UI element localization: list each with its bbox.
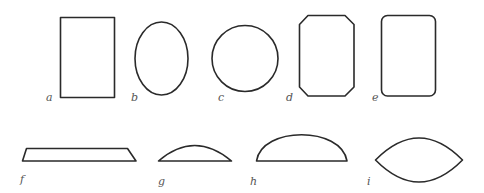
- shape-b: b: [131, 22, 188, 104]
- octagon-shape: [300, 16, 355, 97]
- label-c: c: [218, 91, 224, 104]
- label-a: a: [46, 91, 53, 104]
- shape-e: e: [372, 16, 436, 105]
- rectangle-shape: [61, 18, 115, 98]
- trapezoid-shape: [23, 149, 137, 162]
- shape-c: c: [212, 26, 278, 105]
- circle-shape: [212, 26, 278, 92]
- shape-g: g: [158, 146, 232, 189]
- shape-i: i: [367, 138, 463, 188]
- label-g: g: [158, 175, 165, 188]
- label-d: d: [286, 91, 293, 104]
- shape-a: a: [46, 18, 115, 105]
- label-f: f: [19, 173, 26, 186]
- rounded-rectangle-shape: [382, 16, 436, 97]
- shallow-segment-shape: [159, 146, 232, 162]
- ellipse-shape: [135, 22, 188, 95]
- shape-h: h: [250, 135, 347, 188]
- shape-f: f: [19, 149, 136, 187]
- label-h: h: [250, 175, 257, 188]
- shapes-diagram: a b c d e f g h i: [0, 0, 484, 193]
- deep-segment-shape: [257, 135, 348, 161]
- label-e: e: [372, 91, 379, 104]
- shape-d: d: [286, 16, 354, 105]
- label-i: i: [367, 175, 371, 188]
- label-b: b: [131, 91, 138, 104]
- lens-shape: [376, 138, 463, 182]
